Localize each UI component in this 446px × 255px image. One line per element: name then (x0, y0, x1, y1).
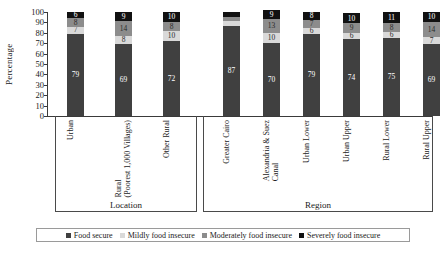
chart-root: Percentage 0102030405060708090100 797866… (0, 0, 446, 255)
legend-item-label: Moderately food insecure (210, 231, 292, 240)
bar-segment[interactable]: 8 (163, 22, 180, 30)
bar-segment[interactable]: 9 (115, 12, 132, 21)
x-axis-group-label: Location (55, 200, 197, 210)
bar-segment[interactable]: 7 (423, 37, 440, 44)
bar-segment[interactable]: 72 (163, 41, 180, 116)
bar-segment[interactable]: 87 (223, 26, 240, 116)
bar-segment-value: 79 (72, 71, 80, 79)
bar-segment[interactable]: 14 (423, 22, 440, 37)
bar-segment[interactable]: 11 (383, 12, 400, 23)
plot-area: 0102030405060708090100 79786698149721081… (47, 12, 433, 116)
stacked-bar[interactable]: 7210810 (163, 12, 180, 116)
x-axis-group-label: Region (203, 200, 433, 210)
bar-segment-value: 9 (350, 24, 354, 32)
bar-segment[interactable]: 69 (423, 44, 440, 116)
y-axis-tick-mark (44, 116, 47, 117)
legend-swatch-icon (299, 233, 304, 238)
bar-segment[interactable]: 7 (67, 27, 84, 34)
bar-segment-value: 8 (74, 19, 78, 27)
stacked-bar[interactable]: 746910 (343, 13, 360, 116)
bar-segment[interactable]: 8 (115, 36, 132, 44)
bar-segment[interactable]: 8 (67, 18, 84, 26)
bar-segment-value: 10 (168, 32, 176, 40)
x-axis-group-box (55, 116, 197, 212)
bar-segment[interactable]: 74 (343, 39, 360, 116)
bar-segment[interactable]: 9 (263, 10, 280, 19)
bar-segment[interactable]: 79 (303, 34, 320, 116)
bar-segment-value: 9 (122, 13, 126, 21)
bar-segment-value: 69 (428, 76, 436, 84)
bar-segment[interactable]: 10 (263, 33, 280, 43)
legend-swatch-icon (120, 233, 125, 238)
bar-segment-value: 8 (310, 12, 314, 20)
bar-segment[interactable]: 8 (383, 23, 400, 31)
stacked-bar[interactable]: 7010139 (263, 10, 280, 116)
y-axis-title: Percentage (2, 18, 16, 110)
bar-segment[interactable]: 70 (263, 43, 280, 116)
stacked-bar[interactable]: 79786 (67, 12, 84, 116)
bar-segment-value: 69 (120, 76, 128, 84)
bar-segment-value: 75 (388, 73, 396, 81)
bar-segment[interactable]: 14 (115, 21, 132, 36)
stacked-bar[interactable]: 79678 (303, 12, 320, 116)
bar-segment-value: 10 (348, 15, 356, 23)
legend-swatch-icon (66, 233, 71, 238)
bar-segment[interactable]: 7 (303, 20, 320, 27)
bar-segment-value: 8 (122, 36, 126, 44)
legend-item-label: Food secure (74, 231, 113, 240)
bar-segment-value: 11 (388, 14, 395, 22)
stacked-bar[interactable]: 756811 (383, 12, 400, 116)
bar-segment-value: 10 (268, 34, 276, 42)
bar-segment-value: 10 (168, 13, 176, 21)
bar-segment[interactable]: 8 (303, 12, 320, 20)
bar-segment-value: 7 (74, 27, 78, 34)
bar-segment-value: 8 (390, 24, 394, 32)
bar-segment[interactable]: 75 (383, 38, 400, 116)
stacked-bar[interactable]: 87 (223, 12, 240, 116)
bar-segment-value: 14 (120, 25, 128, 33)
chart-legend: Food secureMildly food insecureModeratel… (36, 228, 410, 242)
bar-segment-value: 79 (308, 71, 316, 79)
x-axis-group-box (203, 116, 433, 212)
bar-segment[interactable]: 10 (163, 31, 180, 41)
bar-segment[interactable]: 10 (343, 13, 360, 23)
legend-swatch-icon (202, 233, 207, 238)
bar-segment-value: 9 (270, 11, 274, 19)
bar-segment-value: 72 (168, 75, 176, 83)
bar-segment[interactable]: 79 (67, 34, 84, 116)
bar-segment[interactable]: 13 (263, 19, 280, 33)
bar-segment-value: 70 (268, 76, 276, 84)
bar-segment-value: 8 (170, 23, 174, 31)
legend-item[interactable]: Mildly food insecure (120, 231, 195, 240)
bar-segment-value: 7 (430, 37, 434, 44)
stacked-bar[interactable]: 698149 (115, 12, 132, 116)
legend-item[interactable]: Food secure (66, 231, 113, 240)
bar-segment[interactable]: 10 (423, 12, 440, 22)
stacked-bar[interactable]: 6971410 (423, 12, 440, 116)
bar-segment-value: 10 (428, 13, 436, 21)
bar-series-container: 7978669814972108108770101397967874691075… (47, 12, 433, 116)
bar-segment[interactable]: 69 (115, 44, 132, 116)
bar-segment-value: 7 (310, 20, 314, 27)
legend-item-label: Severely food insecure (307, 231, 380, 240)
legend-item-label: Mildly food insecure (128, 231, 195, 240)
bar-segment-value: 14 (428, 26, 436, 34)
legend-item[interactable]: Moderately food insecure (202, 231, 292, 240)
bar-segment-value: 87 (228, 67, 236, 75)
legend-item[interactable]: Severely food insecure (299, 231, 380, 240)
bar-segment-value: 13 (268, 22, 276, 30)
bar-segment[interactable]: 9 (343, 23, 360, 32)
bar-segment[interactable]: 10 (163, 12, 180, 22)
bar-segment-value: 74 (348, 74, 356, 82)
